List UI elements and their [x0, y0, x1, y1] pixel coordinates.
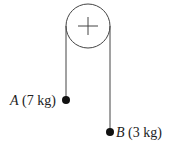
mass-b-label: B (3 kg) [116, 125, 162, 141]
mass-a [62, 96, 70, 104]
mass-b-mass: (3 kg) [125, 125, 163, 141]
mass-a-label: A (7 kg) [9, 93, 56, 109]
pulley-diagram: A (7 kg) B (3 kg) [0, 0, 173, 156]
mass-a-mass: (7 kg) [19, 93, 57, 109]
mass-a-id: A [9, 93, 19, 108]
mass-b [106, 128, 114, 136]
